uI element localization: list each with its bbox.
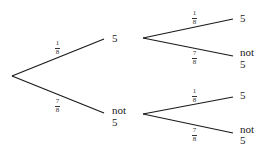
prob-not5-5: 1 8 (192, 88, 197, 104)
outcome-not5-line2: 5 (112, 116, 118, 128)
numerator: 1 (193, 88, 197, 95)
outcome-not5-5: 5 (240, 89, 246, 101)
denominator: 8 (193, 136, 197, 143)
denominator: 8 (56, 107, 60, 114)
outcome-not5-not5-line2: 5 (240, 134, 246, 146)
prob-root-not5: 7 8 (55, 98, 60, 114)
branch-not5-to-not5 (143, 114, 233, 133)
outcome-5: 5 (112, 32, 118, 44)
numerator: 1 (193, 10, 197, 17)
outcome-5-not5-line2: 5 (240, 58, 246, 70)
prob-root-5: 1 8 (55, 40, 60, 56)
prob-5-not5: 7 8 (192, 50, 197, 66)
prob-not5-not5: 7 8 (192, 127, 197, 143)
branch-5-to-not5 (143, 38, 233, 56)
outcome-5-not5-line1: not (240, 46, 254, 58)
denominator: 8 (193, 19, 197, 26)
denominator: 8 (56, 49, 60, 56)
numerator: 7 (193, 50, 197, 57)
numerator: 7 (193, 127, 197, 134)
outcome-5-5: 5 (240, 12, 246, 24)
numerator: 7 (56, 98, 60, 105)
denominator: 8 (193, 59, 197, 66)
denominator: 8 (193, 97, 197, 104)
prob-5-5: 1 8 (192, 10, 197, 26)
tree-diagram-lines (0, 0, 261, 146)
numerator: 1 (56, 40, 60, 47)
outcome-not5-line1: not (112, 104, 126, 116)
branch-5-to-5 (143, 19, 233, 38)
branch-not5-to-5 (143, 97, 233, 114)
